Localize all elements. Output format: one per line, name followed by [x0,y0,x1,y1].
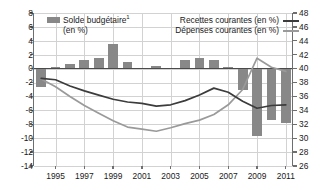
x-axis-tick [55,166,56,169]
x-axis-tick-label: 1995 [46,172,65,180]
x-axis-tick [285,166,286,169]
x-axis-tick [112,166,113,169]
right-axis-tick [293,12,297,13]
right-axis-tick [293,40,297,41]
right-axis-tick-label: 38 [299,78,308,86]
right-axis-tick [293,151,297,152]
right-axis-tick-label: 34 [299,106,308,114]
legend-label-solde: Solde budgétaire1 [63,16,130,25]
x-axis-tick-label: 2001 [133,172,152,180]
x-axis-tick [170,166,171,169]
right-axis-tick-label: 42 [299,51,308,59]
right-axis-tick-label: 28 [299,148,308,156]
x-axis-tick-label: 1999 [104,172,123,180]
recettes-line [41,78,286,108]
x-axis-tick [199,166,200,169]
x-axis-tick-label: 2007 [219,172,238,180]
x-axis-tick-label: 2011 [277,172,295,180]
right-axis-tick-label: 26 [299,162,308,170]
left-axis-tick-label: 8 [28,9,33,17]
x-axis-tick [84,166,85,169]
left-axis-tick-label: -12 [21,148,33,156]
legend-swatch-solde [47,17,60,23]
legend-line-depenses [283,30,299,32]
right-axis-tick [293,124,297,125]
line-series-layer [34,13,293,166]
right-axis-tick [293,138,297,139]
right-axis-tick [293,54,297,55]
right-axis-tick [293,165,297,166]
legend-line-recettes [283,20,299,22]
x-axis-tick [228,166,229,169]
right-axis-tick [293,110,297,111]
left-axis-tick-label: -6 [26,106,33,114]
right-axis-tick [293,96,297,97]
right-axis-tick [293,82,297,83]
chart-figure: Solde budgétaire1 (en %) Recettes couran… [0,0,329,190]
left-axis-tick-label: -4 [26,92,33,100]
left-axis-tick-label: -8 [26,120,33,128]
depenses-line [41,58,286,131]
x-axis-tick [256,166,257,169]
gridline-horizontal [34,166,293,167]
right-axis-tick [293,26,297,27]
left-axis-tick-label: 6 [28,23,33,31]
x-axis-tick-label: 2009 [248,172,267,180]
right-axis-tick-label: 32 [299,120,308,128]
legend-label-depenses: Dépenses courantes (en %) [163,26,279,35]
right-axis-tick-label: 44 [299,37,308,45]
left-axis-tick-label: -10 [21,134,33,142]
right-axis-tick-label: 36 [299,92,308,100]
x-axis-tick [141,166,142,169]
x-axis-tick-label: 2005 [190,172,209,180]
x-axis-tick-label: 2003 [161,172,180,180]
right-axis-tick-label: 40 [299,64,308,72]
left-axis-tick-label: 0 [28,64,33,72]
right-axis-tick-label: 46 [299,23,308,31]
legend-label-recettes: Recettes courantes (en %) [163,16,279,25]
x-axis-tick-label: 1997 [75,172,94,180]
right-axis-tick [293,68,297,69]
right-axis-tick-label: 48 [299,9,308,17]
left-axis-tick-label: -14 [21,162,33,170]
legend-label-solde-unit: (en %) [63,26,88,35]
left-axis-tick-label: 2 [28,51,33,59]
left-axis-tick-label: -2 [26,78,33,86]
right-axis-tick-label: 30 [299,134,308,142]
left-axis-tick-label: 4 [28,37,33,45]
